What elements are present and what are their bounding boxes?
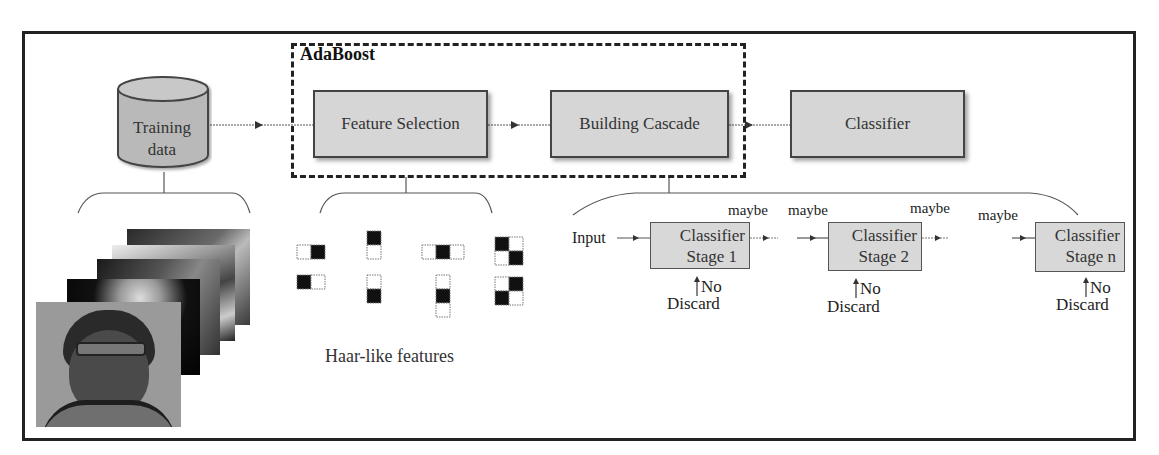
haar-feature-2 [297, 275, 325, 289]
maybe-label-3: maybe [910, 200, 950, 217]
stage-n-discard-label: Discard [1056, 295, 1109, 315]
maybe-label-1: maybe [728, 202, 768, 219]
haar-feature-1 [297, 245, 325, 259]
haar-features-caption: Haar-like features [325, 346, 454, 367]
arrow-icon [255, 121, 263, 129]
stage-1-line2: Stage 1 [651, 246, 745, 267]
face-image-1 [36, 302, 181, 427]
classifier-stage-1: Classifier Stage 1 [650, 222, 750, 269]
training-data-line2: data [116, 139, 208, 161]
adaboost-label: AdaBoost [300, 44, 375, 65]
maybe-label-2: maybe [788, 202, 828, 219]
haar-feature-4 [367, 275, 381, 303]
arrow-up-icon [1083, 277, 1089, 283]
arrow-icon [810, 235, 816, 241]
stage-2-line2: Stage 2 [829, 246, 917, 267]
arrow-icon [1020, 235, 1026, 241]
arrow-icon [745, 121, 753, 129]
arrow-icon [763, 235, 769, 241]
arrow-up-icon [694, 276, 700, 282]
stage-2-discard-label: Discard [827, 297, 880, 317]
classifier-stage-2: Classifier Stage 2 [828, 222, 922, 271]
haar-feature-5 [422, 245, 464, 259]
training-data-line1: Training [116, 117, 208, 139]
maybe-label-4: maybe [978, 207, 1018, 224]
stage-2-line1: Classifier [829, 225, 917, 246]
haar-features [290, 225, 550, 345]
classifier-stage-n: Classifier Stage n [1035, 222, 1125, 272]
stage-n-line2: Stage n [1036, 246, 1120, 267]
stage-1-line1: Classifier [651, 225, 745, 246]
face-glasses [76, 342, 146, 356]
cascade-input-label: Input [572, 229, 606, 247]
haar-feature-6 [436, 275, 450, 317]
arrow-icon [633, 235, 639, 241]
building-cascade-box: Building Cascade [550, 90, 729, 158]
arrow-up-icon [853, 278, 859, 284]
arrow-icon [935, 235, 941, 241]
classifier-box: Classifier [790, 90, 965, 158]
stage-1-discard-label: Discard [667, 294, 720, 314]
stage-n-line1: Classifier [1036, 225, 1120, 246]
haar-feature-7 [495, 237, 523, 265]
face-shoulders [41, 400, 176, 427]
building-cascade-label: Building Cascade [579, 114, 699, 134]
stage-2-no-label: No [860, 279, 881, 299]
haar-feature-3 [367, 231, 381, 259]
haar-feature-8 [495, 277, 523, 305]
training-data-label: Training data [116, 117, 208, 161]
feature-selection-box: Feature Selection [313, 90, 488, 158]
classifier-label: Classifier [845, 114, 910, 134]
feature-selection-label: Feature Selection [341, 114, 460, 134]
